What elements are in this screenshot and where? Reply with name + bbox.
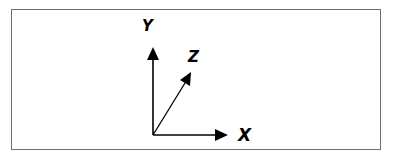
axes-diagram: Y X Z <box>0 0 394 157</box>
y-axis: Y <box>142 17 159 135</box>
y-axis-label: Y <box>142 17 155 35</box>
y-arrowhead-icon <box>147 47 159 60</box>
z-arrowhead-icon <box>180 72 191 86</box>
x-axis: X <box>153 125 252 145</box>
z-axis-label: Z <box>187 48 200 66</box>
x-arrowhead-icon <box>215 129 228 141</box>
x-axis-label: X <box>237 125 252 145</box>
z-axis: Z <box>153 48 200 135</box>
